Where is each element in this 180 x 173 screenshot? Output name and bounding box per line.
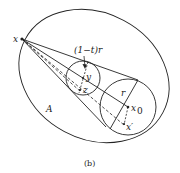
label-x0: x (131, 103, 136, 113)
label-x: x (13, 34, 18, 44)
point-z (79, 89, 81, 91)
point-x0 (127, 106, 130, 109)
label-y: y (85, 72, 92, 82)
diagram-canvas: x (1−t)r y z r x 0 x′ A (b) (0, 0, 180, 173)
point-y (82, 77, 84, 79)
region-ellipse (0, 0, 180, 168)
dashed-line-xprime (22, 39, 124, 125)
label-z: z (82, 85, 88, 95)
figure-caption: (b) (84, 159, 95, 168)
label-r: r (121, 88, 126, 98)
label-xprime: x′ (126, 122, 133, 132)
label-x0-sub: 0 (137, 106, 143, 116)
label-small-radius: (1−t)r (74, 45, 103, 55)
point-xprime (123, 123, 125, 125)
point-x (20, 37, 23, 40)
label-region-a: A (45, 104, 53, 114)
